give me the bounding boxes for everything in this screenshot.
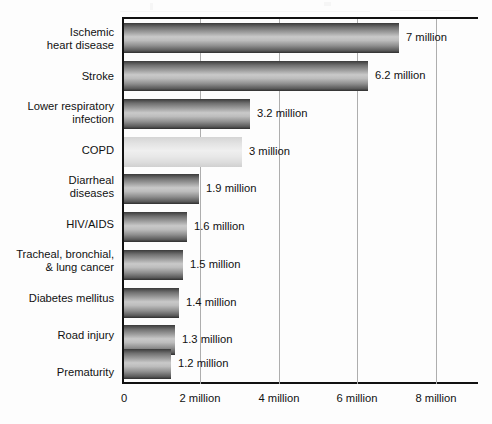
category-label: COPD [0,144,114,157]
category-label: Road injury [0,329,114,342]
category-label: HIV/AIDS [0,218,114,231]
bar-chart: Ischemic heart disease Stroke Lower resp… [0,0,492,424]
bar-tracheal-bronchial-lung-cancer [124,250,183,280]
value-label: 1.5 million [190,258,240,271]
plot-area: 7 million 6.2 million 3.2 million 3 mill… [122,17,478,384]
xtick-label-4-million: 4 million [258,392,299,405]
scan-artifact [390,10,460,11]
xtick-label-0: 0 [121,392,127,405]
xtick-label-2-million: 2 million [179,392,220,405]
value-label: 1.9 million [206,182,256,195]
value-label: 7 million [406,31,447,44]
category-label: Diarrheal diseases [0,174,114,200]
bar-stroke [124,61,368,91]
category-label: Ischemic heart disease [0,26,114,52]
axis-top-line [122,17,478,19]
value-label: 1.2 million [178,357,228,370]
category-label: Prematurity [0,366,114,379]
scan-artifact [150,3,153,10]
category-label: Tracheal, bronchial, & lung cancer [0,248,114,274]
gridline-8-million [436,19,437,384]
xtick-label-8-million: 8 million [415,392,456,405]
bar-diabetes-mellitus [124,288,179,318]
bar-lower-respiratory-infection [124,99,250,129]
bar-copd [124,137,242,167]
scan-artifact [324,2,331,6]
category-label: Stroke [0,70,114,83]
value-label: 6.2 million [375,69,425,82]
category-axis-labels: Ischemic heart disease Stroke Lower resp… [0,16,114,384]
value-label: 1.4 million [186,296,236,309]
value-label: 1.6 million [194,220,244,233]
bar-diarrheal-diseases [124,174,199,204]
xtick-label-6-million: 6 million [336,392,377,405]
value-label: 3.2 million [257,107,307,120]
bar-ischemic-heart-disease [124,23,399,53]
category-label: Diabetes mellitus [0,292,114,305]
value-label: 1.3 million [182,333,232,346]
bar-prematurity [124,349,171,379]
axis-bottom-line [122,382,478,384]
scan-artifact [120,11,370,12]
value-label: 3 million [249,145,290,158]
category-label: Lower respiratory infection [0,100,114,126]
bar-hiv-aids [124,212,187,242]
